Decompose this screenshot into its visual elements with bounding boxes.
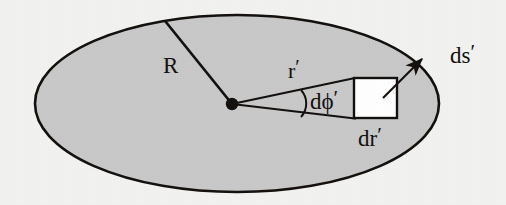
- label-r-prime: r′: [288, 57, 300, 82]
- label-d-phi-prime-mark: ′: [334, 86, 339, 110]
- label-d-r-prime: dr′: [358, 125, 382, 150]
- center-dot: [226, 98, 238, 110]
- label-r-prime-mark: ′: [295, 56, 299, 78]
- label-d-r-prime-mark: ′: [377, 123, 382, 147]
- label-d-s-text: ds: [450, 43, 470, 68]
- label-d-s-prime-mark: ′: [470, 40, 475, 64]
- label-R-text: R: [163, 53, 178, 78]
- area-element-rectangle: [354, 78, 397, 118]
- label-R: R: [163, 52, 178, 77]
- label-d-r-text: dr: [358, 126, 377, 151]
- label-d-s-prime: ds′: [450, 42, 475, 67]
- diagram-canvas: [0, 0, 506, 205]
- label-d-phi-prime: dϕ′: [310, 88, 338, 113]
- label-d-phi-text: dϕ: [310, 89, 334, 114]
- figure-root: R r′ dϕ′ dr′ ds′: [0, 0, 506, 205]
